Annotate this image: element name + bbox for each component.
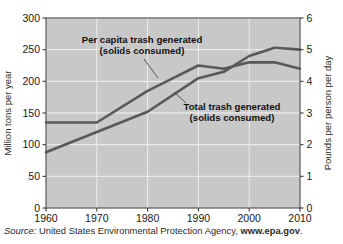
source-prefix: Source: <box>4 225 36 236</box>
right-axis-tick-label: 1 <box>307 170 313 182</box>
left-axis-title: Million tons per year <box>2 70 13 155</box>
right-axis-tick-label: 3 <box>307 107 313 119</box>
right-axis-tick-label: 5 <box>307 43 313 55</box>
x-axis-tick-label: 2010 <box>288 212 312 224</box>
annotation-per-capita-line2: (solids consumed) <box>100 45 185 56</box>
trash-generation-line-chart: 0501001502002503000123456196019701980199… <box>0 0 343 244</box>
left-axis-tick-label: 150 <box>22 107 40 119</box>
source-url: www.epa.gov <box>240 225 300 236</box>
annotation-total-trash-line1: Total trash generated <box>184 101 281 112</box>
annotation-per-capita-line1: Per capita trash generated <box>82 34 203 45</box>
left-axis-tick-label: 300 <box>22 12 40 24</box>
x-axis-tick-label: 1960 <box>34 212 58 224</box>
x-axis-tick-label: 1980 <box>136 212 160 224</box>
source-suffix: . <box>300 225 303 236</box>
left-axis: 050100150200250300 <box>22 12 46 214</box>
x-axis: 196019701980199020002010 <box>34 208 312 224</box>
right-axis-title: Pounds per person per day <box>322 55 333 170</box>
right-axis: 0123456 <box>300 12 313 214</box>
x-axis-tick-label: 1970 <box>85 212 109 224</box>
right-axis-tick-label: 2 <box>307 138 313 150</box>
x-axis-tick-label: 2000 <box>238 212 262 224</box>
left-axis-tick-label: 100 <box>22 138 40 150</box>
x-axis-tick-label: 1990 <box>187 212 211 224</box>
source-caption: Source: United States Environmental Prot… <box>4 225 340 236</box>
left-axis-tick-label: 200 <box>22 75 40 87</box>
source-agency: United States Environmental Protection A… <box>39 225 238 236</box>
left-axis-tick-label: 50 <box>28 170 40 182</box>
right-axis-tick-label: 6 <box>307 12 313 24</box>
chart-figure: 0501001502002503000123456196019701980199… <box>0 0 343 244</box>
annotation-total-trash-line2: (solids consumed) <box>190 112 275 123</box>
right-axis-tick-label: 4 <box>307 75 313 87</box>
left-axis-tick-label: 250 <box>22 43 40 55</box>
